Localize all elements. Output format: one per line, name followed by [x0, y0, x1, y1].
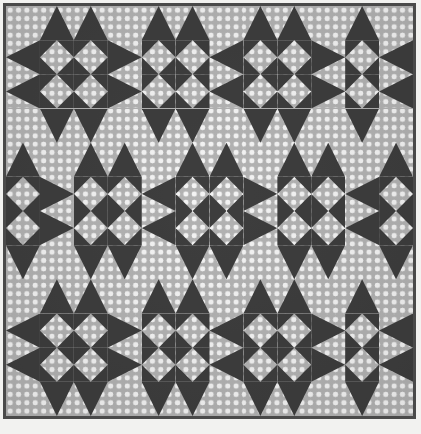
quilt-unit-plain	[6, 6, 40, 40]
corner-triangle	[40, 91, 57, 108]
corner-triangle	[277, 91, 294, 108]
corner-triangle	[159, 57, 176, 74]
quilt-unit-geese-right	[6, 348, 40, 382]
corner-triangle	[159, 331, 176, 348]
corner-triangle	[159, 91, 176, 108]
quilt-unit-geese-right	[379, 314, 413, 348]
corner-triangle	[23, 194, 40, 211]
corner-triangle	[243, 57, 260, 74]
corner-triangle	[40, 74, 57, 91]
corner-triangle	[142, 314, 159, 331]
corner-triangle	[243, 91, 260, 108]
quilt-unit-geese-right	[6, 74, 40, 108]
quilt-unit-geese-left	[108, 74, 142, 108]
corner-triangle	[328, 177, 345, 194]
polka-dot-fabric	[345, 245, 379, 279]
quilt-unit-geese-up	[74, 109, 108, 143]
quilt-unit-onpoint	[74, 348, 108, 382]
corner-triangle	[176, 40, 193, 57]
quilt-unit-onpoint	[40, 74, 74, 108]
corner-triangle	[74, 194, 91, 211]
quilt-unit-onpoint	[379, 177, 413, 211]
quilt-unit-geese-up	[142, 382, 176, 416]
corner-triangle	[345, 314, 362, 331]
corner-triangle	[176, 194, 193, 211]
corner-triangle	[362, 365, 379, 382]
corner-triangle	[176, 57, 193, 74]
quilt-unit-geese-down	[74, 6, 108, 40]
square-on-point-patch	[311, 177, 345, 211]
quilt-unit-onpoint	[277, 74, 311, 108]
polka-dot-fabric	[142, 245, 176, 279]
corner-triangle	[193, 331, 210, 348]
square-on-point-patch	[243, 314, 277, 348]
corner-triangle	[277, 57, 294, 74]
corner-triangle	[226, 228, 243, 245]
corner-triangle	[328, 228, 345, 245]
corner-triangle	[277, 314, 294, 331]
quilt-unit-geese-left	[311, 74, 345, 108]
corner-triangle	[176, 177, 193, 194]
quilt-unit-onpoint	[40, 40, 74, 74]
corner-triangle	[57, 348, 74, 365]
square-on-point-patch	[243, 348, 277, 382]
quilt-unit-geese-up	[74, 245, 108, 279]
quilt-unit-onpoint	[176, 211, 210, 245]
corner-triangle	[311, 194, 328, 211]
quilt-unit-plain	[379, 382, 413, 416]
quilt-unit-plain	[243, 143, 277, 177]
quilt-unit-onpoint	[243, 74, 277, 108]
corner-triangle	[226, 177, 243, 194]
quilt-unit-plain	[379, 109, 413, 143]
square-on-point-patch	[379, 211, 413, 245]
quilt-unit-onpoint	[379, 211, 413, 245]
corner-triangle	[345, 348, 362, 365]
corner-triangle	[311, 177, 328, 194]
square-on-point-patch	[108, 177, 142, 211]
quilt-unit-onpoint	[277, 40, 311, 74]
corner-triangle	[40, 314, 57, 331]
polka-dot-fabric	[311, 382, 345, 416]
corner-triangle	[159, 314, 176, 331]
polka-dot-fabric	[379, 382, 413, 416]
corner-triangle	[294, 57, 311, 74]
quilt-unit-onpoint	[243, 314, 277, 348]
quilt-unit-onpoint	[345, 40, 379, 74]
square-on-point-patch	[142, 74, 176, 108]
corner-triangle	[277, 177, 294, 194]
quilt-unit-onpoint	[210, 177, 244, 211]
quilt-unit-plain	[6, 279, 40, 313]
corner-triangle	[91, 74, 108, 91]
corner-triangle	[142, 365, 159, 382]
corner-triangle	[277, 348, 294, 365]
quilt-unit-geese-up	[243, 109, 277, 143]
quilt-unit-geese-left	[108, 314, 142, 348]
square-on-point-patch	[6, 177, 40, 211]
corner-triangle	[159, 365, 176, 382]
square-on-point-patch	[277, 314, 311, 348]
corner-triangle	[159, 348, 176, 365]
quilt-unit-plain	[6, 109, 40, 143]
corner-triangle	[345, 91, 362, 108]
corner-triangle	[243, 348, 260, 365]
polka-dot-fabric	[243, 245, 277, 279]
polka-dot-fabric	[210, 279, 244, 313]
quilt-unit-onpoint	[210, 211, 244, 245]
quilt-unit-geese-down	[142, 6, 176, 40]
corner-triangle	[125, 211, 142, 228]
quilt-unit-geese-down	[277, 6, 311, 40]
corner-triangle	[176, 331, 193, 348]
polka-dot-fabric	[210, 382, 244, 416]
quilt-unit-geese-down	[243, 279, 277, 313]
quilt-unit-geese-left	[40, 177, 74, 211]
polka-dot-fabric	[311, 6, 345, 40]
corner-triangle	[74, 91, 91, 108]
square-on-point-patch	[40, 74, 74, 108]
quilt-unit-geese-right	[6, 40, 40, 74]
corner-triangle	[379, 228, 396, 245]
quilt-unit-geese-left	[243, 211, 277, 245]
quilt-unit-geese-down	[345, 279, 379, 313]
corner-triangle	[159, 74, 176, 91]
quilt-unit-geese-down	[176, 143, 210, 177]
corner-triangle	[142, 57, 159, 74]
